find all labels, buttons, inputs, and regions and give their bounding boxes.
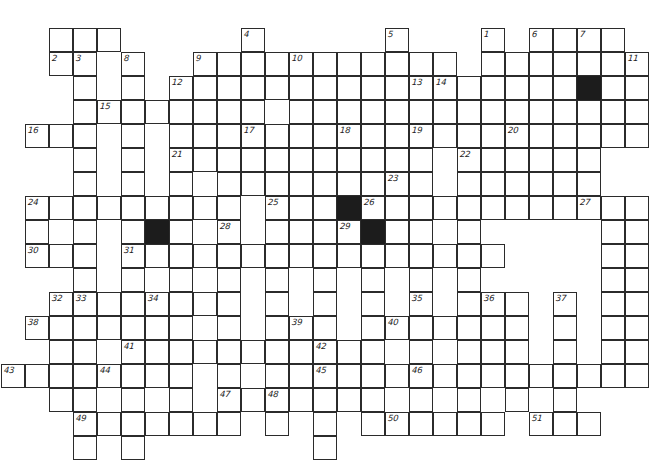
letter-cell[interactable] [169, 292, 193, 316]
letter-cell[interactable]: 24 [25, 196, 49, 220]
letter-cell[interactable] [481, 340, 505, 364]
letter-cell[interactable] [481, 196, 505, 220]
letter-cell[interactable] [73, 340, 97, 364]
letter-cell[interactable] [457, 244, 481, 268]
letter-cell[interactable] [361, 52, 385, 76]
letter-cell[interactable] [457, 340, 481, 364]
letter-cell[interactable] [457, 292, 481, 316]
letter-cell[interactable] [505, 76, 529, 100]
letter-cell[interactable] [241, 100, 265, 124]
letter-cell[interactable]: 44 [97, 364, 121, 388]
letter-cell[interactable] [361, 172, 385, 196]
letter-cell[interactable] [121, 220, 145, 244]
letter-cell[interactable] [385, 124, 409, 148]
letter-cell[interactable] [217, 148, 241, 172]
letter-cell[interactable] [457, 364, 481, 388]
letter-cell[interactable] [97, 292, 121, 316]
letter-cell[interactable] [289, 340, 313, 364]
letter-cell[interactable] [409, 316, 433, 340]
letter-cell[interactable] [265, 220, 289, 244]
letter-cell[interactable] [241, 244, 265, 268]
letter-cell[interactable] [361, 148, 385, 172]
letter-cell[interactable] [169, 316, 193, 340]
letter-cell[interactable] [625, 100, 649, 124]
letter-cell[interactable] [505, 172, 529, 196]
letter-cell[interactable] [121, 292, 145, 316]
letter-cell[interactable] [193, 340, 217, 364]
letter-cell[interactable]: 29 [337, 220, 361, 244]
letter-cell[interactable] [601, 76, 625, 100]
letter-cell[interactable] [193, 100, 217, 124]
letter-cell[interactable] [169, 340, 193, 364]
letter-cell[interactable]: 8 [121, 52, 145, 76]
letter-cell[interactable] [169, 412, 193, 436]
letter-cell[interactable] [481, 76, 505, 100]
letter-cell[interactable] [553, 196, 577, 220]
letter-cell[interactable] [601, 100, 625, 124]
letter-cell[interactable] [121, 76, 145, 100]
letter-cell[interactable] [529, 100, 553, 124]
letter-cell[interactable] [337, 340, 361, 364]
letter-cell[interactable]: 48 [265, 388, 289, 412]
letter-cell[interactable] [601, 268, 625, 292]
letter-cell[interactable] [361, 292, 385, 316]
letter-cell[interactable] [121, 124, 145, 148]
letter-cell[interactable] [73, 196, 97, 220]
letter-cell[interactable] [289, 364, 313, 388]
letter-cell[interactable] [481, 148, 505, 172]
letter-cell[interactable] [625, 364, 649, 388]
letter-cell[interactable] [217, 52, 241, 76]
letter-cell[interactable] [265, 364, 289, 388]
letter-cell[interactable]: 26 [361, 196, 385, 220]
letter-cell[interactable] [505, 100, 529, 124]
letter-cell[interactable]: 49 [73, 412, 97, 436]
letter-cell[interactable]: 22 [457, 148, 481, 172]
letter-cell[interactable] [217, 100, 241, 124]
letter-cell[interactable] [265, 148, 289, 172]
letter-cell[interactable] [121, 172, 145, 196]
letter-cell[interactable] [289, 196, 313, 220]
letter-cell[interactable] [265, 268, 289, 292]
letter-cell[interactable] [577, 148, 601, 172]
letter-cell[interactable] [217, 124, 241, 148]
letter-cell[interactable]: 23 [385, 172, 409, 196]
letter-cell[interactable]: 42 [313, 340, 337, 364]
letter-cell[interactable] [601, 52, 625, 76]
letter-cell[interactable] [625, 268, 649, 292]
letter-cell[interactable] [169, 124, 193, 148]
letter-cell[interactable] [289, 244, 313, 268]
letter-cell[interactable] [457, 196, 481, 220]
letter-cell[interactable] [385, 76, 409, 100]
letter-cell[interactable] [601, 244, 625, 268]
letter-cell[interactable] [505, 340, 529, 364]
letter-cell[interactable] [217, 412, 241, 436]
letter-cell[interactable] [481, 412, 505, 436]
letter-cell[interactable] [265, 292, 289, 316]
letter-cell[interactable]: 10 [289, 52, 313, 76]
letter-cell[interactable] [337, 52, 361, 76]
letter-cell[interactable] [361, 100, 385, 124]
letter-cell[interactable] [577, 364, 601, 388]
letter-cell[interactable]: 6 [529, 28, 553, 52]
letter-cell[interactable] [433, 124, 457, 148]
letter-cell[interactable] [457, 412, 481, 436]
letter-cell[interactable] [529, 76, 553, 100]
letter-cell[interactable] [97, 412, 121, 436]
letter-cell[interactable] [577, 172, 601, 196]
letter-cell[interactable] [121, 388, 145, 412]
letter-cell[interactable] [481, 124, 505, 148]
letter-cell[interactable] [289, 124, 313, 148]
letter-cell[interactable] [289, 172, 313, 196]
letter-cell[interactable] [457, 100, 481, 124]
letter-cell[interactable] [193, 76, 217, 100]
letter-cell[interactable] [553, 172, 577, 196]
letter-cell[interactable] [145, 412, 169, 436]
letter-cell[interactable] [457, 388, 481, 412]
letter-cell[interactable] [625, 340, 649, 364]
letter-cell[interactable] [553, 124, 577, 148]
letter-cell[interactable] [337, 76, 361, 100]
letter-cell[interactable] [73, 124, 97, 148]
letter-cell[interactable] [121, 268, 145, 292]
letter-cell[interactable] [505, 316, 529, 340]
